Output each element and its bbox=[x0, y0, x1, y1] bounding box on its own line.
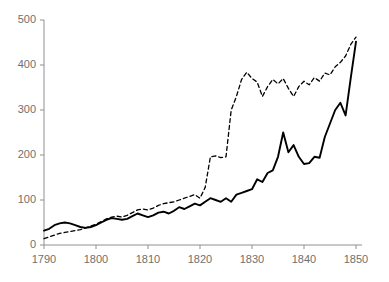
y-axis-tick-label: 100 bbox=[18, 193, 36, 205]
x-axis-tick-label: 1800 bbox=[76, 253, 116, 265]
y-axis-tick-label: 200 bbox=[18, 148, 36, 160]
x-axis-tick-label: 1810 bbox=[128, 253, 168, 265]
y-axis-tick-label: 500 bbox=[18, 13, 36, 25]
x-axis-tick-label: 1790 bbox=[24, 253, 64, 265]
y-axis-tick-label: 300 bbox=[18, 103, 36, 115]
chart-plot-area bbox=[0, 0, 389, 282]
x-axis-tick-label: 1840 bbox=[284, 253, 324, 265]
x-axis-tick-label: 1820 bbox=[180, 253, 220, 265]
y-axis-tick-label: 0 bbox=[30, 238, 36, 250]
y-axis-ticks bbox=[40, 20, 44, 245]
line-chart: 0100200300400500 17901800181018201830184… bbox=[0, 0, 389, 282]
x-axis-ticks bbox=[44, 245, 356, 249]
y-axis-tick-label: 400 bbox=[18, 58, 36, 70]
data-line-solid bbox=[44, 42, 356, 231]
x-axis-tick-label: 1830 bbox=[232, 253, 272, 265]
x-axis-tick-label: 1850 bbox=[336, 253, 376, 265]
data-line-dashed bbox=[44, 37, 356, 239]
